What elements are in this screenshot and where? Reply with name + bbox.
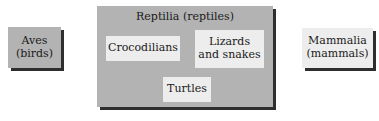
reptilia-box: Reptilia (reptiles) Crocodilians Lizards…	[97, 6, 273, 107]
lizards-snakes-box: Lizards and snakes	[195, 30, 264, 68]
mammalia-common-name: (mammals)	[306, 48, 368, 61]
aves-label: Aves	[16, 35, 53, 48]
turtles-label: Turtles	[167, 83, 207, 96]
reptilia-title: Reptilia (reptiles)	[97, 11, 273, 24]
aves-common-name: (birds)	[16, 48, 53, 61]
snakes-label: and snakes	[198, 49, 260, 62]
mammalia-box: Mammalia (mammals)	[302, 28, 373, 68]
crocodilians-label: Crocodilians	[108, 42, 178, 55]
turtles-box: Turtles	[163, 77, 211, 102]
crocodilians-box: Crocodilians	[106, 36, 180, 61]
aves-box: Aves (birds)	[8, 27, 61, 68]
